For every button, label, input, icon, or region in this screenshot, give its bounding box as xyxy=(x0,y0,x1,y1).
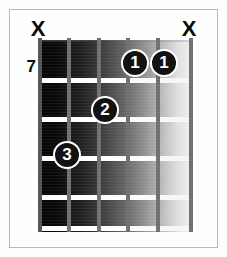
fret-number-label: 7 xyxy=(18,58,36,75)
string-5 xyxy=(67,38,71,232)
fret-line-1 xyxy=(38,78,193,83)
fret-line-4 xyxy=(38,195,193,200)
mute-marker-string-1: X xyxy=(178,18,200,40)
string-1 xyxy=(189,38,193,232)
finger-dot-string-4-fret-2: 2 xyxy=(91,96,119,124)
finger-dot-string-3-fret-1: 1 xyxy=(121,49,149,77)
chord-diagram: X X 7 1 1 2 3 xyxy=(0,0,227,257)
string-6 xyxy=(38,38,42,232)
finger-dot-string-2-fret-1: 1 xyxy=(150,49,178,77)
fret-line-5 xyxy=(38,226,193,231)
string-4 xyxy=(97,38,101,232)
fretboard-top-edge xyxy=(38,40,193,42)
mute-marker-string-6: X xyxy=(27,18,49,40)
finger-dot-string-5-fret-3: 3 xyxy=(53,141,81,169)
